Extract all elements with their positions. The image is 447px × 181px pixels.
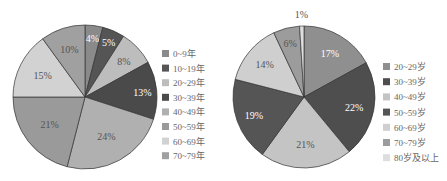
legend-label: 20~29岁 [394, 61, 426, 72]
legend-label: 10~19年 [173, 63, 205, 74]
legend-swatch [162, 65, 169, 72]
legend-label: 30~39年 [173, 92, 205, 103]
legend-1: 0~9年10~19年20~29年30~39年40~49年50~59年60~69年… [162, 48, 205, 161]
legend-label: 20~29年 [173, 77, 205, 88]
legend-label: 70~79岁 [394, 137, 426, 148]
slice-label: 5% [102, 37, 115, 48]
slice-label: 8% [117, 56, 130, 67]
legend-swatch [383, 154, 390, 161]
legend-swatch [383, 109, 390, 116]
slice-label: 19% [245, 110, 263, 121]
slice-label: 13% [133, 87, 151, 98]
legend-label: 0~9年 [173, 48, 196, 59]
legend-swatch [383, 63, 390, 70]
legend-label: 40~49岁 [394, 91, 426, 102]
slice-label: 6% [284, 38, 297, 49]
legend-swatch [162, 94, 169, 101]
legend-swatch [162, 50, 169, 57]
legend-swatch [162, 79, 169, 86]
legend-swatch [383, 124, 390, 131]
slice-label: 15% [33, 70, 51, 81]
legend-label: 50~59年 [173, 121, 205, 132]
slice-label: 4% [86, 33, 99, 44]
legend-label: 60~69岁 [394, 122, 426, 133]
legend-swatch [383, 78, 390, 85]
legend-swatch [383, 93, 390, 100]
legend-swatch [162, 152, 169, 159]
legend-label: 60~69年 [173, 136, 205, 147]
legend-label: 80岁及以上 [394, 152, 439, 163]
legend-label: 30~39岁 [394, 76, 426, 87]
legend-swatch [162, 108, 169, 115]
pie-chart-2: 17%22%21%19%14%6%1% [233, 9, 375, 168]
pie-chart-1: 4%5%8%13%24%21%15%10% [13, 25, 157, 169]
legend-label: 50~59岁 [394, 107, 426, 118]
slice-label: 17% [321, 48, 339, 59]
slice-label: 1% [295, 9, 308, 20]
legend-label: 40~49年 [173, 106, 205, 117]
slice-label: 10% [60, 44, 78, 55]
legend-swatch [383, 139, 390, 146]
slice-label: 14% [255, 59, 273, 70]
legend-swatch [162, 123, 169, 130]
legend-2: 20~29岁30~39岁40~49岁50~59岁60~69岁70~79岁80岁及… [383, 61, 439, 163]
legend-swatch [162, 138, 169, 145]
slice-label: 21% [296, 139, 314, 150]
slice-label: 21% [41, 119, 59, 130]
slice-label: 22% [345, 102, 363, 113]
legend-label: 70~79年 [173, 150, 205, 161]
pie-charts: 4%5%8%13%24%21%15%10%0~9年10~19年20~29年30~… [0, 0, 447, 181]
slice-label: 24% [97, 131, 115, 142]
